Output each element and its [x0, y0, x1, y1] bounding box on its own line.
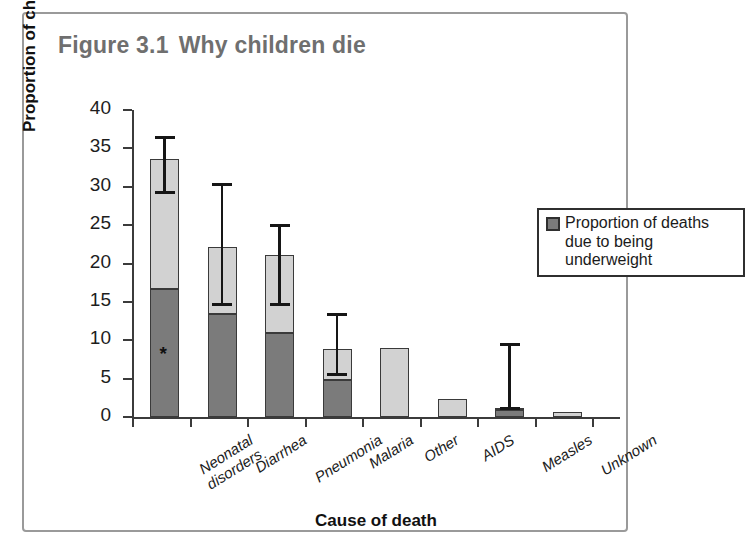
- asterisk-annotation: *: [160, 344, 167, 363]
- y-tick: 25: [123, 224, 132, 226]
- legend-item: Proportion of deaths due to being underw…: [546, 214, 736, 270]
- y-tick-label: 0: [100, 404, 111, 426]
- error-bar-cap-lower: [327, 373, 347, 376]
- error-bar: [278, 226, 281, 304]
- error-bar-cap-upper: [327, 313, 347, 316]
- y-tick: 35: [123, 147, 132, 149]
- x-category-label: Measles: [538, 431, 595, 475]
- y-tick: 30: [123, 186, 132, 188]
- y-tick-label: 5: [100, 366, 111, 388]
- plot-area: 0510152025303540 * Neonatal disordersDia…: [132, 110, 620, 417]
- bar-segment-other: [438, 399, 467, 417]
- legend: Proportion of deaths due to being underw…: [537, 208, 745, 277]
- x-tick: [535, 417, 537, 427]
- x-category-label: Other: [421, 431, 462, 466]
- error-bar: [221, 184, 224, 304]
- error-bar-cap-lower: [500, 407, 520, 410]
- bar-segment-underweight: [323, 380, 352, 417]
- legend-label: Proportion of deaths due to being underw…: [565, 214, 736, 270]
- x-tick: [132, 417, 134, 427]
- figure-number: Figure 3.1: [58, 32, 169, 58]
- x-tick: [305, 417, 307, 427]
- x-tick: [420, 417, 422, 427]
- error-bar-cap-upper: [270, 224, 290, 227]
- y-tick-label: 35: [90, 135, 111, 157]
- error-bar-cap-upper: [212, 183, 232, 186]
- error-bar-cap-lower: [212, 303, 232, 306]
- error-bar-cap-lower: [270, 303, 290, 306]
- y-tick: 10: [123, 339, 132, 341]
- bar-segment-underweight: [265, 333, 294, 417]
- bar-segment-underweight: [208, 314, 237, 417]
- error-bar: [508, 345, 511, 409]
- y-tick: 20: [123, 263, 132, 265]
- x-tick: [477, 417, 479, 427]
- page-title: Figure 3.1Why children die: [58, 32, 366, 59]
- y-tick-label: 20: [90, 251, 111, 273]
- bar-segment-other: [553, 412, 582, 417]
- legend-swatch-underweight: [546, 217, 560, 231]
- bar-segment-other: [380, 348, 409, 417]
- figure-title-text: Why children die: [179, 32, 366, 58]
- error-bar: [163, 138, 166, 192]
- y-axis-line: [132, 110, 134, 417]
- x-category-label: AIDS: [478, 431, 517, 464]
- y-tick-label: 10: [90, 327, 111, 349]
- y-tick-label: 15: [90, 289, 111, 311]
- x-axis-line: [132, 417, 620, 419]
- y-tick-label: 30: [90, 174, 111, 196]
- x-tick: [190, 417, 192, 427]
- y-tick: 5: [123, 378, 132, 380]
- y-tick: 0: [123, 416, 132, 418]
- bar-group: [438, 110, 467, 417]
- y-tick: 40: [123, 109, 132, 111]
- bar-group: [380, 110, 409, 417]
- error-bar-cap-lower: [155, 191, 175, 194]
- x-tick: [362, 417, 364, 427]
- x-axis-title: Cause of death: [132, 511, 620, 531]
- y-axis-title: Proportion of child deaths (%): [20, 0, 40, 132]
- x-tick: [592, 417, 594, 427]
- error-bar: [336, 315, 339, 374]
- bar-segment-underweight: [495, 410, 524, 417]
- y-tick-label: 40: [90, 97, 111, 119]
- y-tick-label: 25: [90, 212, 111, 234]
- error-bar-cap-upper: [500, 343, 520, 346]
- figure-frame: Figure 3.1Why children die Proportion of…: [22, 12, 628, 532]
- x-category-label: Unknown: [597, 431, 659, 479]
- error-bar-cap-upper: [155, 136, 175, 139]
- y-tick: 15: [123, 301, 132, 303]
- x-tick: [247, 417, 249, 427]
